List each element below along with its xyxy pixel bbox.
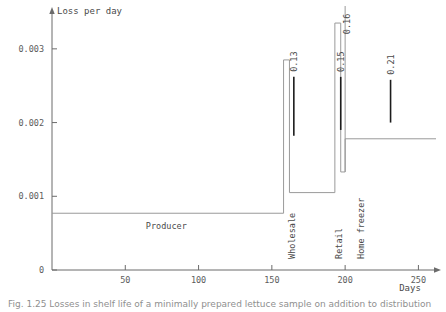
annotation-group: 0.130.150.160.21	[289, 14, 396, 136]
data-series-group	[52, 6, 436, 213]
data-line	[52, 23, 436, 213]
y-tick-label: 0.001	[18, 191, 44, 201]
annotation-label: 0.16	[342, 14, 352, 34]
y-tick-group: 00.0010.0020.003	[18, 44, 57, 275]
stage-label: Producer	[146, 221, 187, 231]
y-axis-arrow	[49, 7, 54, 14]
figure-caption: Fig. 1.25 Losses in shelf life of a mini…	[8, 299, 446, 309]
x-axis-arrow	[434, 267, 441, 272]
x-tick-group: 50100150200250	[120, 265, 426, 285]
y-tick-label: 0.002	[18, 118, 44, 128]
x-tick-label: 200	[337, 275, 352, 285]
axes-group	[49, 7, 441, 273]
y-tick-label: 0.003	[18, 44, 44, 54]
y-axis-title: Loss per day	[57, 6, 123, 16]
y-tick-label: 0	[39, 265, 44, 275]
annotation-label: 0.15	[336, 51, 346, 71]
x-axis-title: Days	[399, 283, 421, 293]
annotation-label: 0.21	[386, 54, 396, 74]
annotation-label: 0.13	[289, 51, 299, 71]
stage-label: Wholesale	[287, 213, 297, 259]
x-tick-label: 150	[264, 275, 279, 285]
x-tick-label: 50	[120, 275, 130, 285]
figure-container: 00.0010.0020.003 50100150200250 Loss per…	[0, 0, 446, 312]
stage-label-group: ProducerWholesaleRetailHome freezer	[146, 198, 366, 259]
loss-per-day-chart: 00.0010.0020.003 50100150200250 Loss per…	[0, 0, 446, 312]
stage-label: Retail	[334, 228, 344, 259]
x-tick-label: 100	[191, 275, 206, 285]
stage-label: Home freezer	[356, 198, 366, 259]
